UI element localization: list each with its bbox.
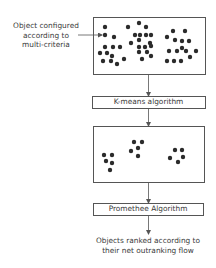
clustered-object-dot: [132, 140, 136, 144]
clustered-object-dot: [168, 156, 172, 160]
object-dot: [187, 39, 191, 43]
clustered-object-dot: [102, 153, 106, 157]
object-dot: [103, 45, 107, 49]
input-objects-label: Object configured according to multi-cri…: [6, 21, 86, 50]
object-dot: [112, 35, 116, 39]
object-dot: [137, 50, 141, 54]
object-dot: [149, 44, 153, 48]
object-dot: [101, 59, 105, 63]
object-dot: [165, 35, 169, 39]
object-dot: [137, 21, 141, 25]
object-dot: [129, 41, 133, 45]
object-dot: [167, 49, 171, 53]
object-dot: [103, 33, 107, 37]
object-dot: [133, 33, 137, 37]
object-dot: [98, 51, 102, 55]
object-dot: [145, 50, 149, 54]
object-dot: [110, 54, 114, 58]
object-dot: [149, 33, 153, 37]
clustered-object-dot: [129, 149, 133, 153]
object-dot: [137, 45, 141, 49]
input-label-line-1: Object configured: [6, 21, 86, 31]
clustered-object-dot: [110, 153, 114, 157]
object-dot: [188, 55, 192, 59]
clustered-object-dot: [136, 154, 140, 158]
object-dot: [137, 38, 141, 42]
clustered-object-dot: [173, 148, 177, 152]
clustered-object-dot: [181, 155, 185, 159]
clustered-object-dot: [180, 148, 184, 152]
object-dot: [149, 54, 153, 58]
object-dot: [183, 29, 187, 33]
input-label-line-3: multi-criteria: [6, 40, 86, 50]
object-dot: [143, 45, 147, 49]
clustered-object-dot: [104, 159, 108, 163]
object-dot: [111, 45, 115, 49]
object-dot: [115, 62, 119, 66]
input-label-line-2: according to: [6, 31, 86, 41]
object-dot: [173, 38, 177, 42]
output-label-line-1: Objects ranked according to: [78, 236, 216, 246]
object-dot: [126, 25, 130, 29]
object-dot: [105, 51, 109, 55]
object-dot: [180, 39, 184, 43]
object-dot: [144, 25, 148, 29]
clustered-object-dot: [176, 160, 180, 164]
clustered-object-dot: [108, 168, 112, 172]
object-dot: [144, 33, 148, 37]
object-dot: [180, 46, 184, 50]
object-dot: [138, 33, 142, 37]
output-ranked-objects-label: Objects ranked according to their net ou…: [78, 236, 216, 255]
object-dot: [194, 49, 198, 53]
object-dot: [109, 59, 113, 63]
object-dot: [171, 29, 175, 33]
object-dot: [118, 45, 122, 49]
promethee-algorithm-step: Promethee Algorithm: [93, 203, 203, 214]
clustered-object-dot: [110, 161, 114, 165]
object-dot: [179, 59, 183, 63]
output-label-line-2: their net outranking flow: [78, 246, 216, 256]
object-dot: [103, 25, 107, 29]
object-dot: [175, 49, 179, 53]
object-dot: [184, 49, 188, 53]
clustered-object-dot: [136, 146, 140, 150]
object-dot: [165, 59, 169, 63]
object-dot: [140, 57, 144, 61]
object-dot: [172, 59, 176, 63]
clustered-object-dot: [140, 140, 144, 144]
object-dot: [122, 57, 126, 61]
kmeans-algorithm-step: K-means algorithm: [92, 96, 205, 107]
